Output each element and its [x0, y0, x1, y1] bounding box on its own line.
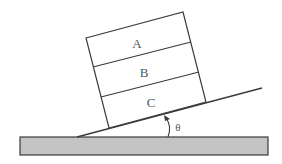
angle-arrowhead-icon [164, 115, 170, 121]
angle-theta-label: θ [175, 121, 180, 133]
incline-diagram: A B C θ [0, 0, 282, 164]
block-a-label: A [132, 36, 142, 51]
block-b-label: B [140, 65, 149, 80]
block-c-label: C [147, 95, 156, 110]
ground-slab [20, 137, 268, 155]
angle-arc [166, 118, 170, 137]
